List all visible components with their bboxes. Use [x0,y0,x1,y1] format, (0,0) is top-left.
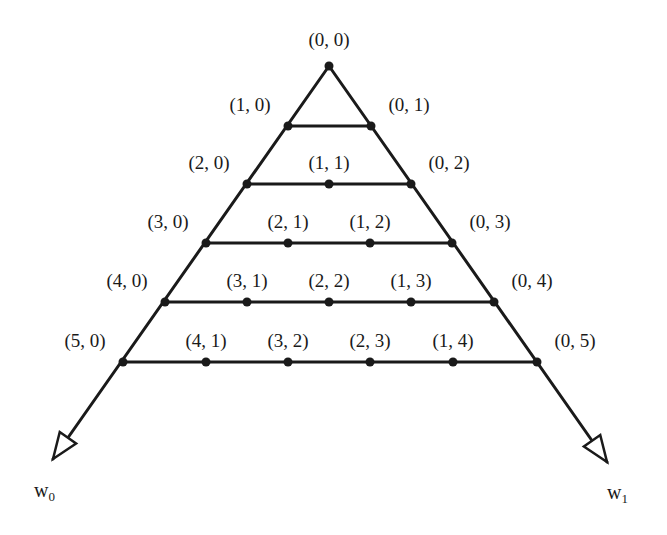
node-label: (1, 0) [229,95,270,114]
node-label: (1, 1) [308,153,349,172]
axis-label-w1: w1 [607,482,628,505]
node-label: (2, 3) [349,331,390,350]
lattice-node [448,239,457,248]
lattice-node [243,298,252,307]
node-label: (0, 2) [428,153,469,172]
node-label: (2, 2) [308,271,349,290]
axis-label-w1-name: w [607,481,621,503]
lattice-node [202,358,211,367]
lattice-node [284,358,293,367]
node-label: (0, 5) [554,331,595,350]
lattice-diagram [0,0,667,535]
node-label: (1, 3) [390,271,431,290]
lattice-node [449,358,458,367]
lattice-node [325,62,334,71]
lattice-edges [53,66,607,462]
lattice-node [533,358,542,367]
lattice-node [161,298,170,307]
axis-label-w0: w0 [34,480,55,503]
lattice-node [366,239,375,248]
axis-label-w0-name: w [34,479,48,501]
lattice-node [490,298,499,307]
lattice-node [407,298,416,307]
node-label: (1, 4) [432,331,473,350]
node-label: (5, 0) [64,331,105,350]
node-label: (0, 1) [388,95,429,114]
lattice-node [202,239,211,248]
lattice-node [325,180,334,189]
arrowhead-w0-icon [53,432,76,459]
node-label: (0, 4) [511,271,552,290]
node-label: (2, 0) [188,153,229,172]
axis-label-w0-subscript: 0 [48,489,55,504]
lattice-node [367,122,376,131]
node-label: (2, 1) [267,212,308,231]
node-label: (3, 0) [147,212,188,231]
node-label: (1, 2) [349,212,390,231]
node-label: (3, 2) [267,331,308,350]
lattice-node [243,180,252,189]
axis-label-w1-subscript: 1 [621,491,628,506]
axis-arrows [53,432,607,462]
node-label: (0, 0) [308,30,349,49]
lattice-node [284,122,293,131]
lattice-node [366,358,375,367]
lattice-node [284,239,293,248]
lattice-node [407,180,416,189]
arrowhead-w1-icon [584,435,607,462]
lattice-node [119,358,128,367]
lattice-node [325,298,334,307]
node-label: (4, 0) [106,271,147,290]
node-label: (3, 1) [226,271,267,290]
node-label: (0, 3) [469,212,510,231]
node-label: (4, 1) [185,331,226,350]
